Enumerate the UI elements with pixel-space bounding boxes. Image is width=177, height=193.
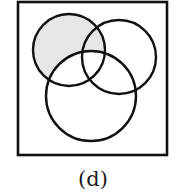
venn-diagram — [0, 0, 177, 193]
shaded-region-a-minus-c — [0, 0, 177, 193]
figure-caption: (d) — [0, 166, 177, 192]
